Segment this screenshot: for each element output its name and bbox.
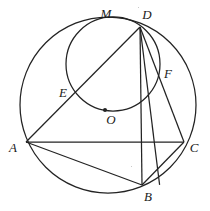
- segment-D-B: [140, 27, 142, 185]
- point-label-O: O: [106, 113, 115, 126]
- segment-B-C: [142, 142, 184, 185]
- segment-A-D: [26, 27, 140, 142]
- point-label-B: B: [144, 190, 152, 203]
- point-label-F: F: [164, 67, 172, 80]
- paper-speck: [138, 7, 139, 8]
- point-label-A: A: [9, 141, 17, 154]
- segment-A-B: [26, 142, 142, 185]
- geometry-canvas: [0, 0, 210, 211]
- point-label-D: D: [142, 8, 151, 21]
- point-label-E: E: [59, 86, 67, 99]
- paper-speck: [131, 166, 132, 167]
- inner-circle: [66, 17, 160, 111]
- point-label-M: M: [101, 7, 112, 20]
- point-label-C: C: [190, 141, 199, 154]
- geometry-figure: M D F E O A C B: [0, 0, 210, 211]
- segment-D-F-B: [140, 27, 160, 185]
